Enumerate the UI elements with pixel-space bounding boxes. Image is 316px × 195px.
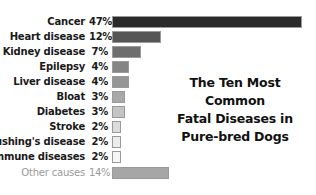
percent-label: 4%: [89, 60, 108, 74]
title-line-1: The Ten Most Common: [165, 74, 305, 110]
percent-label: 3%: [89, 90, 108, 104]
category-label: Cushing's disease: [0, 135, 85, 149]
bar: [112, 136, 121, 148]
bar: [112, 121, 121, 133]
bar: [112, 106, 125, 118]
bar-row-immune-diseases: Immune diseases 2%: [0, 150, 316, 165]
category-label: Epilepsy: [39, 60, 85, 74]
bar: [112, 167, 169, 179]
bar: [112, 16, 302, 28]
category-label: Bloat: [57, 90, 85, 104]
bar-row-epilepsy: Epilepsy 4%: [0, 60, 316, 75]
percent-label: 3%: [89, 105, 108, 119]
percent-label: 2%: [89, 120, 108, 134]
percent-label: 47%: [89, 15, 108, 29]
percent-label: 12%: [89, 30, 108, 44]
bar-row-cancer: Cancer 47%: [0, 15, 316, 30]
bar: [112, 61, 129, 73]
bar-row-other-causes: Other causes 14%: [0, 166, 316, 181]
bar: [112, 91, 125, 103]
percent-label: 14%: [89, 166, 108, 180]
category-label: Stroke: [49, 120, 85, 134]
title-line-3: Pure-bred Dogs: [165, 128, 305, 146]
bar-row-kidney-disease: Kidney disease 7%: [0, 45, 316, 60]
bar: [112, 31, 161, 43]
percent-label: 2%: [89, 135, 108, 149]
category-label: Kidney disease: [3, 45, 85, 59]
chart-title: The Ten Most Common Fatal Diseases in Pu…: [165, 74, 305, 146]
category-label: Other causes: [21, 166, 85, 180]
bar-row-heart-disease: Heart disease 12%: [0, 30, 316, 45]
percent-label: 4%: [89, 75, 108, 89]
bar: [112, 76, 129, 88]
bar: [112, 151, 121, 163]
title-line-2: Fatal Diseases in: [165, 110, 305, 128]
category-label: Liver disease: [13, 75, 85, 89]
category-label: Cancer: [47, 15, 85, 29]
category-label: Immune diseases: [0, 150, 85, 164]
bar: [112, 46, 141, 58]
percent-label: 2%: [89, 150, 108, 164]
percent-label: 7%: [89, 45, 108, 59]
category-label: Diabetes: [37, 105, 85, 119]
category-label: Heart disease: [10, 30, 85, 44]
